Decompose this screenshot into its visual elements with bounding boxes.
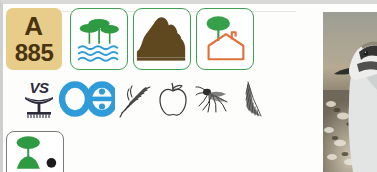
bird-photo-content [323, 12, 377, 172]
photo-credit-wrapper: F Li [304, 6, 320, 66]
feather-icon [237, 80, 269, 120]
vs-label: VS [21, 79, 57, 96]
bird-photograph [323, 12, 377, 172]
eggs-icon [59, 79, 115, 119]
grain-stalk-icon [119, 80, 153, 118]
mosquito-icon [194, 80, 232, 118]
nest-platform-icon [23, 95, 55, 119]
behaviour-card-foliage-forage [6, 131, 64, 172]
habitat-card-wetland-forest [70, 8, 128, 70]
tree-bush-forage-icon [7, 132, 63, 172]
habitat-card-garden [196, 8, 254, 70]
tree-and-house-icon [197, 9, 253, 69]
apple-icon [157, 80, 189, 118]
vs-block: VS [21, 79, 57, 119]
page-root: A 885 [0, 0, 377, 172]
code-letter: A [24, 13, 43, 39]
code-number: 885 [15, 41, 54, 65]
species-code-badge: A 885 [6, 8, 62, 70]
mud-mound-icon [134, 9, 190, 69]
flooded-forest-icon [71, 9, 127, 69]
habitat-card-mudflat [133, 8, 191, 70]
